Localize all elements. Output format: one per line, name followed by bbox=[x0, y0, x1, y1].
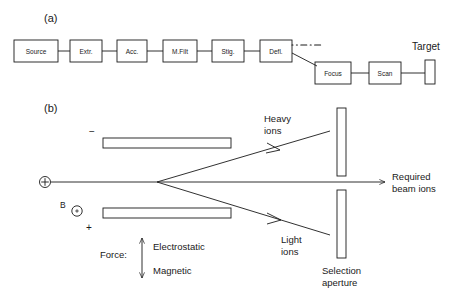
block-stig-label: Stig. bbox=[221, 48, 234, 56]
block-extr[interactable]: Extr. bbox=[70, 40, 102, 62]
top-deflection-plate bbox=[103, 138, 231, 148]
ion-beam-figure: (a) Source Extr. bbox=[0, 0, 455, 299]
heavy-ions-label-line2: ions bbox=[264, 125, 282, 136]
ion-source-marker-icon bbox=[40, 177, 51, 188]
bottom-deflection-plate bbox=[103, 208, 231, 218]
force-electrostatic-label: Electrostatic bbox=[153, 241, 205, 252]
required-beam-ions-label: Required beam ions bbox=[392, 171, 436, 194]
required-beam-ions-line1: Required bbox=[392, 171, 431, 182]
panel-b: (b) − + B bbox=[40, 102, 437, 288]
block-defl[interactable]: Defl. bbox=[260, 40, 292, 62]
selection-aperture-line2: aperture bbox=[322, 277, 357, 288]
block-focus-label: Focus bbox=[324, 70, 342, 77]
block-stig[interactable]: Stig. bbox=[212, 40, 244, 62]
block-target-rect bbox=[425, 60, 435, 84]
beam-light-ions-arrow-icon bbox=[267, 213, 281, 224]
block-acc-label: Acc. bbox=[126, 48, 139, 55]
beam-light-ions bbox=[157, 182, 330, 235]
light-ions-label-line2: ions bbox=[281, 246, 299, 257]
block-acc[interactable]: Acc. bbox=[117, 40, 147, 62]
block-mfilt-label: M.Filt bbox=[172, 48, 188, 55]
heavy-ions-label-line1: Heavy bbox=[264, 113, 291, 124]
block-scan-label: Scan bbox=[378, 70, 393, 77]
block-target-label: Target bbox=[412, 41, 440, 52]
figure-canvas: (a) Source Extr. bbox=[0, 0, 455, 299]
beam-heavy-ions bbox=[157, 131, 330, 182]
force-magnetic-label: Magnetic bbox=[153, 265, 192, 276]
selection-aperture-lower-blade bbox=[337, 190, 346, 258]
selection-aperture-upper-blade bbox=[337, 108, 346, 176]
block-defl-label: Defl. bbox=[269, 48, 283, 55]
magnetic-field-label: B bbox=[60, 200, 66, 210]
panel-b-label: (b) bbox=[44, 102, 57, 114]
bottom-plate-sign: + bbox=[86, 222, 92, 233]
panel-a: (a) Source Extr. bbox=[14, 12, 440, 84]
light-ions-label: Light ions bbox=[281, 234, 302, 257]
block-mfilt[interactable]: M.Filt bbox=[163, 40, 197, 62]
force-legend-title: Force: bbox=[100, 249, 127, 260]
selection-aperture-label: Selection aperture bbox=[322, 265, 361, 288]
block-extr-label: Extr. bbox=[79, 48, 92, 55]
block-scan[interactable]: Scan bbox=[369, 62, 401, 84]
block-source-label: Source bbox=[26, 48, 47, 55]
light-ions-label-line1: Light bbox=[281, 234, 302, 245]
panel-a-label: (a) bbox=[44, 12, 57, 24]
heavy-ions-label: Heavy ions bbox=[264, 113, 291, 136]
block-source[interactable]: Source bbox=[14, 40, 58, 62]
selection-aperture-line1: Selection bbox=[322, 265, 361, 276]
magnetic-field-symbol-icon: B bbox=[60, 200, 82, 216]
block-target[interactable]: Target bbox=[412, 41, 440, 84]
block-focus[interactable]: Focus bbox=[315, 62, 351, 84]
panel-a-connectors bbox=[58, 45, 425, 73]
force-legend: Force: Electrostatic Magnetic bbox=[100, 238, 205, 278]
required-beam-ions-line2: beam ions bbox=[392, 183, 436, 194]
top-plate-sign: − bbox=[89, 126, 95, 137]
connector-defl-focus bbox=[292, 53, 317, 66]
